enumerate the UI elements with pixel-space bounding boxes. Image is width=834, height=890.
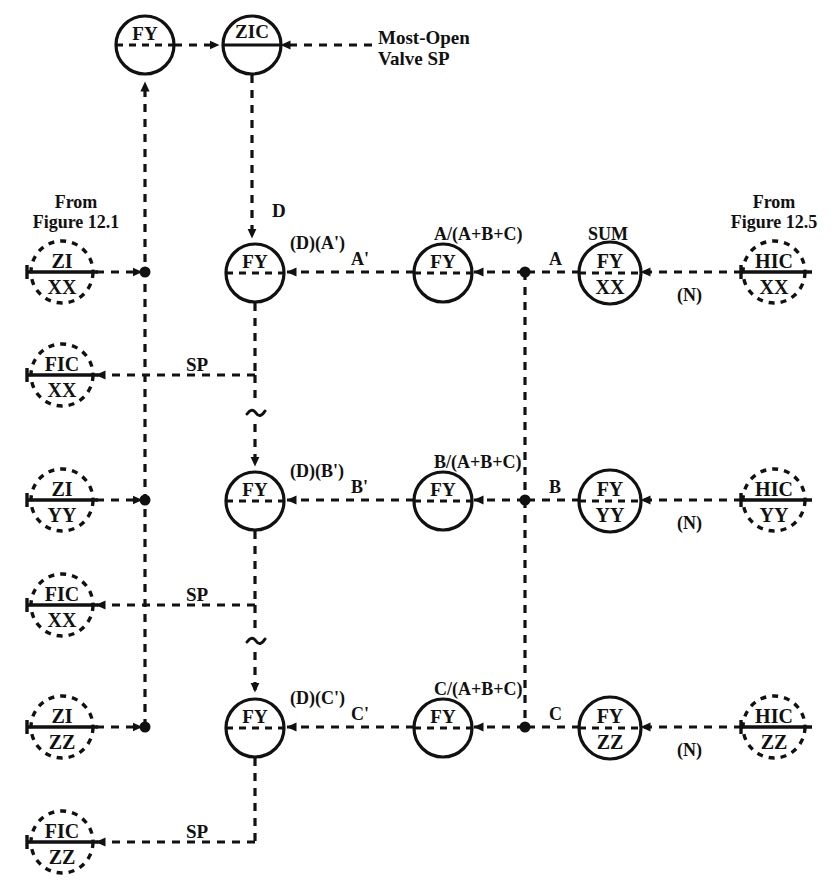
bubble-zi-zz[interactable]	[26, 696, 98, 758]
junction-dot-zi-yy	[140, 495, 151, 506]
annotation-d-a-prime: (D)(A')	[290, 233, 345, 253]
annotation-from-figure-12-1: From Figure 12.1	[30, 192, 122, 232]
annotation-ratio-a: A/(A+B+C)	[434, 224, 523, 244]
bubble-hic-xx[interactable]	[740, 241, 812, 303]
bubble-hic-zz[interactable]	[740, 696, 812, 758]
annotation-n-yy: (N)	[677, 513, 702, 533]
annotation-d: D	[272, 200, 286, 221]
annotation-a-prime: A'	[351, 249, 369, 269]
annotation-b: B	[549, 477, 561, 497]
bubble-fy-top[interactable]	[116, 16, 174, 74]
annotation-d-c-prime: (D)(C')	[290, 688, 345, 708]
junction-dot-b	[520, 495, 531, 506]
annotation-c-prime: C'	[351, 704, 369, 724]
bubble-fy-yy[interactable]	[579, 470, 641, 532]
annotation-sum: SUM	[588, 224, 628, 244]
junction-dot-a	[520, 267, 531, 278]
junction-dot-zi-zz	[140, 722, 151, 733]
junction-dot-c	[520, 722, 531, 733]
annotation-c: C	[549, 704, 562, 724]
bubble-fy-xx[interactable]	[579, 242, 641, 304]
annotation-from-figure-12-5: From Figure 12.5	[726, 192, 822, 232]
bubble-fic-zz[interactable]	[26, 811, 98, 873]
bubble-fy-mul-b[interactable]	[226, 472, 284, 530]
annotation-a: A	[549, 249, 562, 269]
bubble-zi-yy[interactable]	[26, 469, 98, 531]
bubble-fy-mul-c[interactable]	[226, 699, 284, 757]
bubble-fic-xx-1[interactable]	[26, 344, 98, 406]
annotation-sp-yy: SP	[186, 584, 208, 605]
annotation-d-b-prime: (D)(B')	[290, 461, 344, 481]
annotation-n-zz: (N)	[677, 740, 702, 760]
annotation-b-prime: B'	[351, 477, 368, 497]
bubble-zic-top[interactable]	[223, 16, 281, 74]
diagram-lines	[0, 0, 834, 890]
break-mark-2	[247, 638, 265, 643]
bubble-fy-zz[interactable]	[579, 697, 641, 759]
annotation-sp-xx: SP	[186, 354, 208, 375]
bubble-fic-xx-2[interactable]	[26, 574, 98, 636]
bubble-fy-rat-b[interactable]	[414, 472, 472, 530]
diagram-canvas: FY ZIC ZI XX ZI YY ZI ZZ FIC XX FIC XX F…	[0, 0, 834, 890]
annotation-ratio-b: B/(A+B+C)	[434, 452, 522, 472]
break-mark-1	[247, 410, 265, 415]
annotation-n-xx: (N)	[677, 285, 702, 305]
bubble-zi-xx[interactable]	[26, 241, 98, 303]
bubble-hic-yy[interactable]	[740, 469, 812, 531]
bubble-fy-mul-a[interactable]	[226, 244, 284, 302]
bubble-fy-rat-a[interactable]	[414, 244, 472, 302]
junction-dot-zi-xx	[140, 267, 151, 278]
bubble-fy-rat-c[interactable]	[414, 699, 472, 757]
annotation-most-open-valve-sp: Most-Open Valve SP	[378, 27, 470, 70]
annotation-ratio-c: C/(A+B+C)	[434, 679, 523, 699]
annotation-sp-zz: SP	[186, 821, 208, 842]
